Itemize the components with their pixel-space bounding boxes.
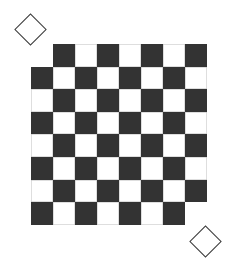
light-square	[75, 89, 97, 112]
light-square	[119, 89, 141, 112]
dark-square	[185, 44, 207, 67]
light-square	[163, 89, 185, 112]
light-square	[163, 44, 185, 67]
dark-square	[163, 157, 185, 180]
light-square	[185, 112, 207, 135]
light-square	[75, 134, 97, 157]
light-square	[31, 134, 53, 157]
dark-square	[31, 202, 53, 225]
light-square	[53, 202, 75, 225]
dark-square	[97, 134, 119, 157]
dark-square	[75, 67, 97, 90]
light-square	[119, 180, 141, 203]
light-square	[141, 157, 163, 180]
dark-square	[53, 89, 75, 112]
dark-square	[75, 112, 97, 135]
dark-square	[141, 89, 163, 112]
light-square	[141, 67, 163, 90]
dark-square	[53, 44, 75, 67]
dark-square	[185, 134, 207, 157]
dark-square	[163, 67, 185, 90]
light-square	[31, 89, 53, 112]
light-square	[97, 67, 119, 90]
light-square	[53, 67, 75, 90]
dark-square	[97, 44, 119, 67]
light-square	[141, 202, 163, 225]
light-square	[141, 112, 163, 135]
light-square	[119, 134, 141, 157]
light-square	[185, 157, 207, 180]
dark-square	[141, 134, 163, 157]
light-square	[163, 134, 185, 157]
dark-square	[141, 44, 163, 67]
top-left-removed-square-diamond-icon	[14, 13, 47, 46]
dark-square	[75, 202, 97, 225]
dark-square	[119, 112, 141, 135]
light-square	[97, 157, 119, 180]
dark-square	[119, 202, 141, 225]
dark-square	[53, 180, 75, 203]
dark-square	[75, 157, 97, 180]
dark-square	[119, 157, 141, 180]
light-square	[119, 44, 141, 67]
light-square	[185, 67, 207, 90]
dark-square	[31, 157, 53, 180]
dark-square	[97, 89, 119, 112]
light-square	[163, 180, 185, 203]
light-square	[75, 180, 97, 203]
bottom-right-removed-square-diamond-icon	[189, 225, 222, 258]
light-square	[97, 202, 119, 225]
dark-square	[185, 180, 207, 203]
mutilated-chessboard	[0, 0, 233, 274]
dark-square	[163, 112, 185, 135]
dark-square	[31, 67, 53, 90]
dark-square	[119, 67, 141, 90]
dark-square	[185, 89, 207, 112]
dark-square	[31, 112, 53, 135]
dark-square	[141, 180, 163, 203]
light-square	[31, 180, 53, 203]
dark-square	[163, 202, 185, 225]
light-square	[53, 112, 75, 135]
dark-square	[97, 180, 119, 203]
light-square	[53, 157, 75, 180]
dark-square	[53, 134, 75, 157]
light-square	[75, 44, 97, 67]
light-square	[97, 112, 119, 135]
